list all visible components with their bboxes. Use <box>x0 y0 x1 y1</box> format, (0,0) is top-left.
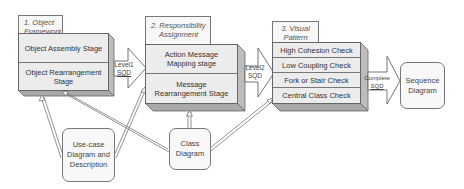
class-diagram-box: Class Diagram <box>169 128 211 170</box>
stage3-row-high-cohesion: High Cohesion Check <box>273 43 360 58</box>
stage1-row-rearrangement: Object Rearrangement Stage <box>19 63 108 91</box>
stage3-row-central-class: Central Class Check <box>273 88 360 103</box>
level1-label-line1: Level1 <box>113 61 135 69</box>
stage1-tab: 1. Object Framework <box>18 15 63 34</box>
stage2-box: Action Message Mapping stage Message Rea… <box>145 44 238 104</box>
stage2-row-message-rearrangement: Message Rearrangement Stage <box>146 74 237 104</box>
stage3-row-low-coupling: Low Coupling Check <box>273 58 360 73</box>
stage3-tab-line1: 3. Visual <box>273 24 318 33</box>
level2-arrow-label: Level2 SQD <box>243 64 267 80</box>
stage2-tab-line2: Assignment <box>151 30 207 39</box>
complete-label-line1: Complete <box>363 74 391 82</box>
stage3-row-fork-stair: Fork or Stair Check <box>273 73 360 88</box>
sequence-diagram-box: Sequence Diagram <box>400 62 445 109</box>
level2-label-line2: SQD <box>243 72 267 80</box>
stage3-box: High Cohesion Check Low Coupling Check F… <box>272 42 361 104</box>
stage2-tab-line1: 2. Responsibility <box>151 21 207 30</box>
level1-label-line2: SQD <box>113 69 135 77</box>
stage3-tab-line2: Pattern <box>273 33 318 42</box>
complete-label-line2: SQD <box>363 82 391 90</box>
stage2-bottom <box>145 103 245 111</box>
stage1-box: Object Assembly Stage Object Rearrangeme… <box>18 33 109 91</box>
level2-label-line1: Level2 <box>243 64 267 72</box>
stage3-tab: 3. Visual Pattern <box>272 21 319 43</box>
complete-arrow-label: Complete SQD <box>363 74 391 90</box>
stage1-tab-line1: 1. Object <box>24 18 59 27</box>
level1-arrow-label: Level1 SQD <box>113 61 135 77</box>
stage1-row-assembly: Object Assembly Stage <box>19 34 108 63</box>
stage2-row-action-mapping: Action Message Mapping stage <box>146 45 237 74</box>
stage3-bottom <box>272 103 368 111</box>
usecase-diagram-box: Use-case Diagram and Description <box>62 128 115 182</box>
stage2-tab: 2. Responsibility Assignment <box>145 16 211 45</box>
